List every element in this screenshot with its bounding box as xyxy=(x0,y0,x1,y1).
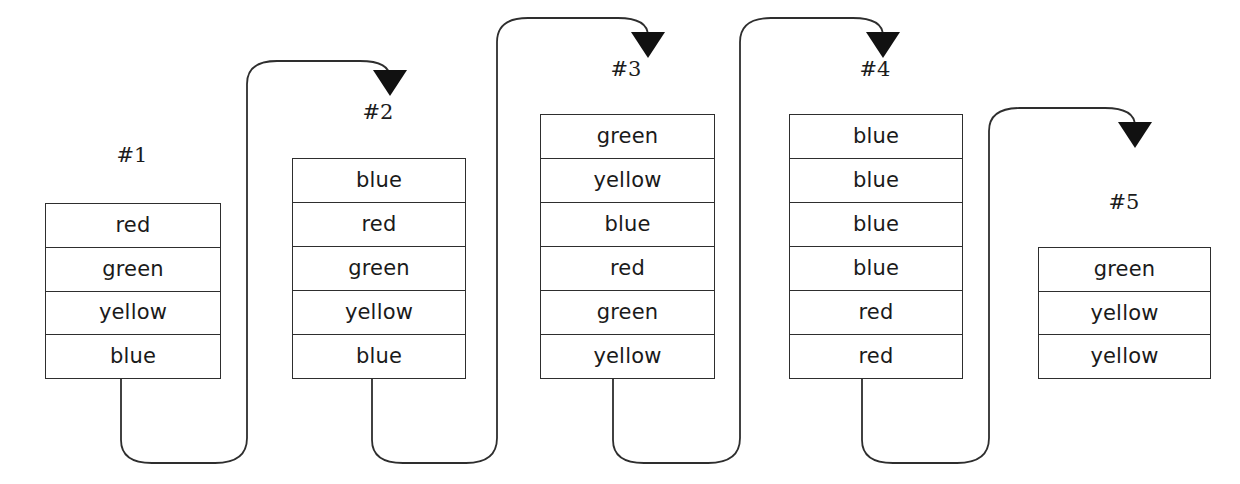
stack-cell[interactable]: blue xyxy=(46,335,220,378)
stack-cell[interactable]: red xyxy=(541,247,714,291)
stack-label-1: #1 xyxy=(117,143,148,167)
connector-3-to-4-arrowhead-icon xyxy=(866,32,900,58)
stack-cell[interactable]: red xyxy=(293,203,465,247)
stack-cell[interactable]: blue xyxy=(790,115,962,159)
stack-cell[interactable]: green xyxy=(1039,248,1210,292)
stack-cell[interactable]: red xyxy=(790,291,962,335)
diagram-canvas: #1redgreenyellowblue#2blueredgreenyellow… xyxy=(0,0,1240,484)
stack-cell[interactable]: blue xyxy=(293,335,465,378)
stack-cell[interactable]: blue xyxy=(790,247,962,291)
stack-cell[interactable]: yellow xyxy=(541,335,714,378)
stack-label-4: #4 xyxy=(860,57,891,81)
stack-5[interactable]: greenyellowyellow xyxy=(1038,247,1211,379)
stack-cell[interactable]: blue xyxy=(541,203,714,247)
stack-1[interactable]: redgreenyellowblue xyxy=(45,203,221,379)
connector-1-to-2-arrowhead-icon xyxy=(373,70,407,96)
stack-cell[interactable]: green xyxy=(293,247,465,291)
stack-cell[interactable]: red xyxy=(790,335,962,378)
stack-cell[interactable]: red xyxy=(46,204,220,248)
stack-cell[interactable]: yellow xyxy=(1039,292,1210,336)
stack-label-2: #2 xyxy=(363,100,394,124)
stack-cell[interactable]: blue xyxy=(293,159,465,203)
stack-cell[interactable]: blue xyxy=(790,203,962,247)
stack-3[interactable]: greenyellowblueredgreenyellow xyxy=(540,114,715,379)
stack-cell[interactable]: blue xyxy=(790,159,962,203)
stack-cell[interactable]: yellow xyxy=(46,292,220,336)
stack-cell[interactable]: yellow xyxy=(1039,335,1210,378)
stack-cell[interactable]: yellow xyxy=(293,291,465,335)
stack-cell[interactable]: green xyxy=(46,248,220,292)
stack-2[interactable]: blueredgreenyellowblue xyxy=(292,158,466,379)
stack-4[interactable]: blueblueblueblueredred xyxy=(789,114,963,379)
connector-2-to-3-arrowhead-icon xyxy=(631,32,665,58)
stack-cell[interactable]: green xyxy=(541,291,714,335)
stack-cell[interactable]: yellow xyxy=(541,159,714,203)
stack-label-3: #3 xyxy=(611,57,642,81)
stack-cell[interactable]: green xyxy=(541,115,714,159)
stack-label-5: #5 xyxy=(1109,190,1140,214)
connector-4-to-5-arrowhead-icon xyxy=(1118,122,1152,148)
